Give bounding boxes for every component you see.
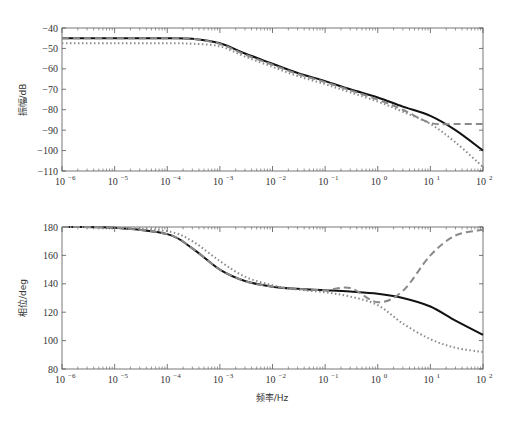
x-tick-exponent: −5: [121, 174, 129, 182]
y-tick-label: −100: [37, 145, 58, 156]
y-tick-label: 180: [43, 222, 58, 233]
magnitude-series: [62, 38, 483, 167]
x-tick-label: 10: [55, 176, 65, 187]
x-tick-exponent: 2: [489, 174, 493, 182]
x-tick-label: 10: [423, 374, 433, 385]
x-tick-exponent: −6: [68, 372, 76, 380]
x-tick-label: 10: [160, 374, 170, 385]
magnitude-x-axis: 10−610−510−410−310−210−1100101102: [55, 28, 493, 187]
x-tick-label: 10: [108, 176, 118, 187]
x-tick-label: 10: [318, 374, 328, 385]
x-tick-exponent: −2: [279, 372, 287, 380]
series-dotted-gray: [62, 227, 483, 352]
x-tick-exponent: −1: [331, 174, 339, 182]
x-tick-label: 10: [371, 374, 381, 385]
y-tick-label: 80: [48, 364, 58, 375]
y-tick-label: −50: [42, 43, 58, 54]
x-tick-label: 10: [108, 374, 118, 385]
y-tick-label: 100: [43, 335, 58, 346]
y-tick-label: −90: [42, 125, 58, 136]
x-tick-label: 10: [266, 176, 276, 187]
x-tick-label: 10: [213, 374, 223, 385]
phase-plot: 18016014012010080 10−610−510−410−310−210…: [17, 222, 493, 404]
phase-y-axis: 18016014012010080: [43, 222, 483, 375]
y-tick-label: 160: [43, 250, 58, 261]
x-tick-exponent: −5: [121, 372, 129, 380]
magnitude-plot-frame: [62, 28, 483, 171]
x-tick-exponent: −4: [173, 372, 181, 380]
x-tick-exponent: −3: [226, 372, 234, 380]
x-tick-exponent: 2: [489, 372, 493, 380]
x-tick-exponent: 0: [384, 372, 388, 380]
magnitude-y-axis: −40−50−60−70−80−90−100−110: [37, 23, 483, 177]
x-tick-label: 10: [213, 176, 223, 187]
series-dotted-gray: [62, 43, 483, 167]
y-tick-label: −70: [42, 84, 58, 95]
y-tick-label: 120: [43, 307, 58, 318]
magnitude-plot: −40−50−60−70−80−90−100−110 10−610−510−41…: [17, 23, 493, 188]
phase-plot-frame: [62, 227, 483, 369]
y-tick-label: −60: [42, 63, 58, 74]
series-dashed-gray: [62, 227, 483, 302]
x-tick-label: 10: [55, 374, 65, 385]
bode-plot-figure: −40−50−60−70−80−90−100−110 10−610−510−41…: [0, 0, 511, 421]
x-tick-exponent: −3: [226, 174, 234, 182]
x-tick-exponent: −1: [331, 372, 339, 380]
x-tick-exponent: −4: [173, 174, 181, 182]
phase-series: [62, 227, 483, 352]
x-tick-label: 10: [423, 176, 433, 187]
figure-caption-fragment: [0, 410, 511, 421]
series-solid-black: [62, 227, 483, 335]
x-tick-exponent: 0: [384, 174, 388, 182]
frequency-x-axis-title: 频率/Hz: [256, 392, 289, 403]
x-tick-label: 10: [160, 176, 170, 187]
x-tick-label: 10: [476, 374, 486, 385]
x-tick-label: 10: [266, 374, 276, 385]
phase-y-axis-title: 相位/deg: [17, 279, 28, 317]
x-tick-exponent: 1: [436, 174, 440, 182]
y-tick-label: −40: [42, 23, 58, 34]
magnitude-y-axis-title: 振幅/dB: [17, 84, 28, 117]
y-tick-label: 140: [43, 278, 58, 289]
x-tick-exponent: −6: [68, 174, 76, 182]
x-tick-label: 10: [318, 176, 328, 187]
x-tick-label: 10: [371, 176, 381, 187]
series-solid-black: [62, 38, 483, 150]
y-tick-label: −80: [42, 104, 58, 115]
y-tick-label: −110: [38, 166, 58, 177]
x-tick-exponent: −2: [279, 174, 287, 182]
x-tick-label: 10: [476, 176, 486, 187]
x-tick-exponent: 1: [436, 372, 440, 380]
